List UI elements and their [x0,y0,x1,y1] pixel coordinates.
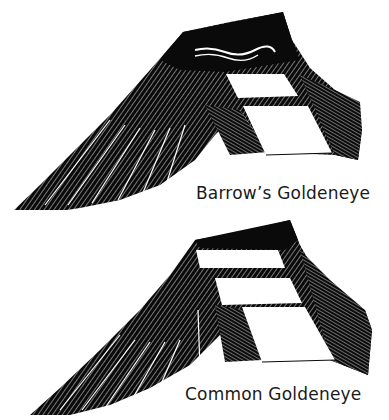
barrow-wing-illustration [0,0,389,210]
goldeneye-wing-comparison: Barrow’s Goldeneye Common Goldeneye [0,0,389,420]
common-goldeneye-caption: Common Goldeneye [185,384,361,404]
barrows-goldeneye-caption: Barrow’s Goldeneye [196,183,370,203]
middle-white-band [215,278,302,305]
upper-white-band [196,250,285,268]
